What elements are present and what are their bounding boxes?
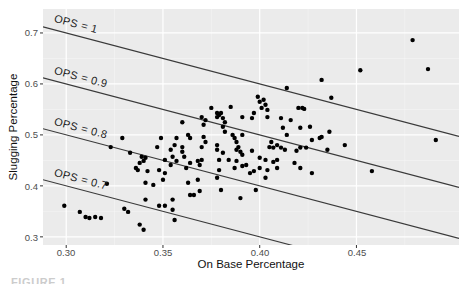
data-point bbox=[203, 118, 207, 122]
data-point bbox=[120, 136, 124, 140]
data-point bbox=[188, 136, 192, 140]
data-point bbox=[126, 210, 130, 214]
data-point bbox=[141, 228, 145, 232]
data-point bbox=[329, 96, 333, 100]
data-point bbox=[252, 169, 256, 173]
data-point bbox=[271, 160, 275, 164]
data-point bbox=[159, 136, 163, 140]
data-point bbox=[186, 181, 190, 185]
data-point bbox=[296, 106, 300, 110]
data-point bbox=[248, 171, 252, 175]
x-tick-label-0.40: 0.40 bbox=[244, 248, 276, 258]
data-point bbox=[196, 159, 200, 163]
data-point bbox=[319, 78, 323, 82]
data-point bbox=[87, 216, 91, 220]
data-point bbox=[163, 204, 167, 208]
data-point bbox=[198, 189, 202, 193]
data-point bbox=[188, 161, 192, 165]
plot-panel bbox=[43, 9, 459, 245]
data-point bbox=[343, 143, 347, 147]
data-point bbox=[271, 145, 275, 149]
data-point bbox=[143, 197, 147, 201]
data-point bbox=[209, 106, 213, 110]
data-point bbox=[265, 115, 269, 119]
data-point bbox=[298, 145, 302, 149]
x-tick-label-0.30: 0.30 bbox=[50, 248, 82, 258]
x-tick-label-0.35: 0.35 bbox=[147, 248, 179, 258]
data-point bbox=[279, 145, 283, 149]
data-point bbox=[240, 153, 244, 157]
data-point bbox=[275, 143, 279, 147]
data-point bbox=[269, 140, 273, 144]
data-point bbox=[252, 111, 256, 115]
data-point bbox=[229, 105, 233, 109]
data-point bbox=[310, 138, 314, 142]
data-point bbox=[143, 181, 147, 185]
data-point bbox=[62, 204, 66, 208]
data-point bbox=[244, 163, 248, 167]
data-point bbox=[232, 166, 236, 170]
data-point bbox=[254, 188, 258, 192]
data-point bbox=[370, 169, 374, 173]
data-point bbox=[327, 130, 331, 134]
data-point bbox=[234, 148, 238, 152]
data-point bbox=[157, 168, 161, 172]
data-point bbox=[198, 163, 202, 167]
data-point bbox=[203, 140, 207, 144]
data-point bbox=[250, 116, 254, 120]
data-point bbox=[358, 68, 362, 72]
data-point bbox=[234, 140, 238, 144]
data-point bbox=[285, 86, 289, 90]
data-point bbox=[308, 125, 312, 129]
data-point bbox=[325, 148, 329, 152]
data-point bbox=[201, 123, 205, 127]
data-point bbox=[157, 204, 161, 208]
data-point bbox=[265, 168, 269, 172]
data-point bbox=[279, 116, 283, 120]
data-point bbox=[138, 222, 142, 226]
data-point bbox=[259, 106, 263, 110]
data-point bbox=[240, 164, 244, 168]
data-point bbox=[172, 218, 176, 222]
data-point bbox=[310, 171, 314, 175]
data-point bbox=[99, 216, 103, 220]
data-point bbox=[227, 158, 231, 162]
data-point bbox=[196, 178, 200, 182]
data-point bbox=[426, 67, 430, 71]
x-axis-title: On Base Percentage bbox=[43, 258, 459, 270]
data-point bbox=[172, 143, 176, 147]
data-point bbox=[304, 145, 308, 149]
data-point bbox=[275, 166, 279, 170]
caption-fragment: FIGURE 1. bbox=[11, 276, 131, 284]
data-point bbox=[155, 145, 159, 149]
data-point bbox=[240, 133, 244, 137]
data-point bbox=[109, 145, 113, 149]
data-point bbox=[201, 135, 205, 139]
data-point bbox=[232, 136, 236, 140]
data-point bbox=[258, 156, 262, 160]
data-point bbox=[285, 133, 289, 137]
data-point bbox=[292, 161, 296, 165]
y-axis-title: Slugging Percentage bbox=[7, 74, 19, 181]
data-point bbox=[192, 193, 196, 197]
data-point bbox=[163, 171, 167, 175]
data-point bbox=[170, 197, 174, 201]
data-point bbox=[169, 148, 173, 152]
data-point bbox=[163, 158, 167, 162]
data-point bbox=[298, 126, 302, 130]
plot-canvas bbox=[0, 0, 459, 284]
data-point bbox=[240, 115, 244, 119]
data-point bbox=[174, 159, 178, 163]
data-point bbox=[219, 111, 223, 115]
data-point bbox=[302, 107, 306, 111]
data-point bbox=[136, 168, 140, 172]
data-point bbox=[93, 215, 97, 219]
data-point bbox=[217, 158, 221, 162]
data-point bbox=[200, 115, 204, 119]
data-point bbox=[184, 166, 188, 170]
data-point bbox=[161, 178, 165, 182]
data-point bbox=[170, 208, 174, 212]
data-point bbox=[219, 188, 223, 192]
data-point bbox=[250, 149, 254, 153]
data-point bbox=[83, 215, 87, 219]
